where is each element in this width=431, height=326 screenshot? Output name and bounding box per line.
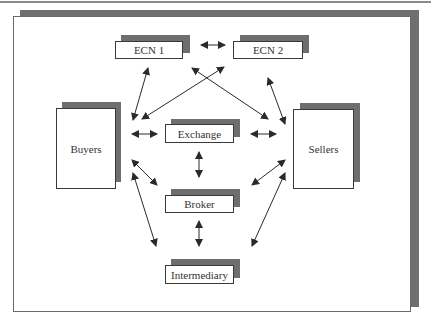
sellers-label: Sellers	[309, 143, 339, 155]
exchange-node: Exchange	[165, 124, 234, 143]
exchange-label: Exchange	[178, 128, 221, 140]
intermediary-node: Intermediary	[165, 265, 234, 284]
buyers-label: Buyers	[70, 143, 101, 155]
broker-label: Broker	[184, 198, 215, 210]
sellers-node: Sellers	[293, 109, 354, 189]
broker-node: Broker	[165, 195, 234, 213]
ecn1-node: ECN 1	[115, 41, 183, 59]
ecn1-label: ECN 1	[134, 44, 164, 56]
top-rule	[0, 1, 431, 3]
buyers-node: Buyers	[56, 108, 116, 189]
ecn2-node: ECN 2	[233, 41, 303, 59]
intermediary-label: Intermediary	[171, 269, 228, 281]
ecn2-label: ECN 2	[253, 44, 283, 56]
